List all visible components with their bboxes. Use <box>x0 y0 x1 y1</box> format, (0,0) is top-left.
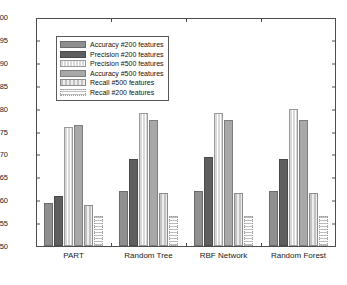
bar <box>224 120 233 246</box>
legend-label: Precision #200 features <box>90 51 164 58</box>
y-tick-label: 55 <box>0 220 8 228</box>
bar <box>119 191 128 246</box>
bar <box>299 120 308 246</box>
bar <box>244 216 253 246</box>
bar <box>234 193 243 246</box>
legend-swatch <box>60 79 86 86</box>
legend-swatch <box>60 41 86 48</box>
legend-item: Recall #500 features <box>60 78 164 88</box>
bar <box>269 191 278 246</box>
legend-item: Accuracy #200 features <box>60 40 164 50</box>
legend-label: Precision #500 features <box>90 60 164 67</box>
y-tick-label: 85 <box>0 83 8 91</box>
x-tick-label: RBF Network <box>200 252 248 260</box>
legend-label: Accuracy #500 features <box>90 70 164 77</box>
x-tick-label: PART <box>63 252 84 260</box>
bar <box>94 216 103 246</box>
bar <box>74 125 83 246</box>
legend-swatch <box>60 89 86 96</box>
bar-group <box>261 19 336 246</box>
y-tick-label: 95 <box>0 37 8 45</box>
x-tick-label: Random Tree <box>124 252 172 260</box>
bar <box>194 191 203 246</box>
y-tick-label: 70 <box>0 152 8 160</box>
y-tick-label: 50 <box>0 243 8 251</box>
bar <box>214 113 223 246</box>
bar <box>139 113 148 246</box>
bar <box>169 216 178 246</box>
legend-swatch <box>60 51 86 58</box>
bar <box>44 203 53 247</box>
bar <box>319 216 328 246</box>
y-tick-label: 80 <box>0 106 8 114</box>
bar <box>84 205 93 246</box>
y-tick-label: 60 <box>0 197 8 205</box>
bar-chart: 50556065707580859095100 PARTRandom TreeR… <box>0 0 347 285</box>
bar-group <box>186 19 261 246</box>
legend-item: Precision #500 features <box>60 59 164 69</box>
legend-item: Accuracy #500 features <box>60 69 164 79</box>
bar <box>309 193 318 246</box>
bar <box>64 127 73 246</box>
bar <box>149 120 158 246</box>
bar <box>159 193 168 246</box>
y-tick-label: 100 <box>0 14 8 22</box>
bar <box>54 196 63 246</box>
bar <box>204 157 213 246</box>
y-tick-label: 75 <box>0 129 8 137</box>
y-tick-label: 90 <box>0 60 8 68</box>
bar <box>289 109 298 246</box>
bar <box>279 159 288 246</box>
chart-legend: Accuracy #200 featuresPrecision #200 fea… <box>56 36 169 101</box>
legend-label: Accuracy #200 features <box>90 41 164 48</box>
bar <box>129 159 138 246</box>
legend-label: Recall #500 features <box>90 79 154 86</box>
legend-swatch <box>60 60 86 67</box>
legend-swatch <box>60 70 86 77</box>
legend-label: Recall #200 features <box>90 89 154 96</box>
legend-item: Recall #200 features <box>60 88 164 98</box>
legend-item: Precision #200 features <box>60 50 164 60</box>
y-tick-label: 65 <box>0 175 8 183</box>
x-tick-label: Random Forest <box>271 252 326 260</box>
